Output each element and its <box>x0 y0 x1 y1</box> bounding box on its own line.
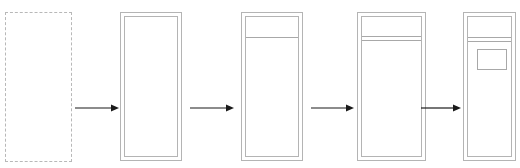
arrow-right-icon <box>421 102 461 114</box>
arrow-right-icon <box>311 102 354 114</box>
step-2-frame <box>120 12 182 161</box>
arrow-right-icon <box>190 102 234 114</box>
step-3-inner-frame <box>245 16 299 157</box>
header-divider-top <box>362 36 421 37</box>
step-2-inner-frame <box>124 16 178 157</box>
header-divider-bottom <box>468 41 511 42</box>
step-5-frame <box>463 12 516 161</box>
header-divider <box>246 37 298 38</box>
header-divider-top <box>468 37 511 38</box>
step-1-frame <box>5 12 72 162</box>
step-4-inner-frame <box>361 16 422 157</box>
header-divider-bottom <box>362 40 421 41</box>
arrow-right-icon <box>75 102 119 114</box>
step-4-frame <box>357 12 426 161</box>
step-3-frame <box>241 12 303 161</box>
content-box <box>477 49 507 70</box>
step-5-inner-frame <box>467 16 512 157</box>
